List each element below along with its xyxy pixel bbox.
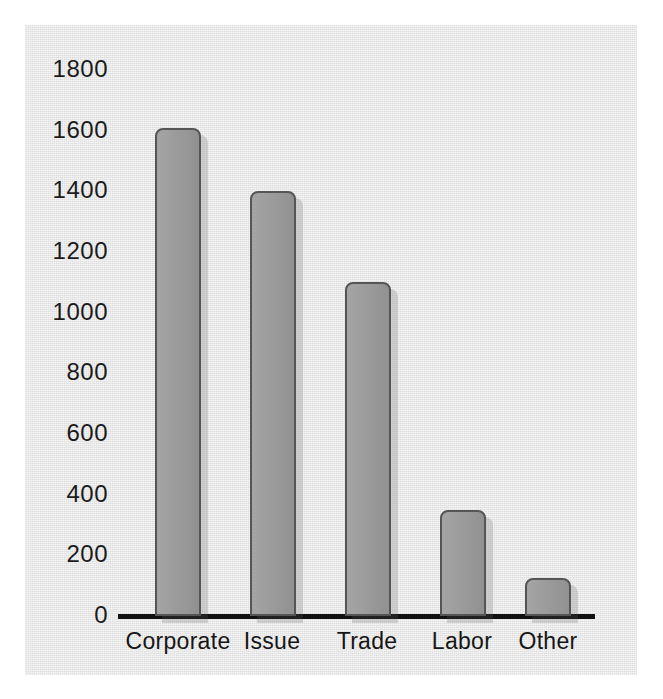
y-axis-tick-text: 800 — [66, 358, 108, 386]
y-axis-tick-text: 0 — [94, 601, 108, 629]
x-axis-tick-label-issue: Issue — [244, 628, 300, 655]
bar-issue[interactable] — [250, 191, 296, 616]
y-axis-tick-text: 1600 — [53, 116, 108, 144]
y-axis-tick-text: 1400 — [53, 176, 108, 204]
y-axis-tick-text: 200 — [66, 540, 108, 568]
bar-labor[interactable] — [440, 510, 486, 616]
y-axis-tick-text: 400 — [66, 480, 108, 508]
x-axis-tick-label-trade: Trade — [337, 628, 398, 655]
bar-corporate[interactable] — [155, 128, 201, 616]
y-axis-tick-text: 1200 — [53, 237, 108, 265]
bar-other[interactable] — [525, 578, 571, 616]
x-axis-tick-label-other: Other — [518, 628, 577, 655]
plot-area: 020040060080010001200140016001800 Corpor… — [0, 0, 663, 699]
x-axis-tick-label-corporate: Corporate — [126, 628, 231, 655]
x-axis-tick-label-labor: Labor — [432, 628, 492, 655]
y-axis: 020040060080010001200140016001800 — [0, 0, 108, 699]
y-axis-tick-text: 600 — [66, 419, 108, 447]
bar-chart-figure: 020040060080010001200140016001800 Corpor… — [0, 0, 663, 699]
bar-trade[interactable] — [345, 282, 391, 616]
y-axis-tick-text: 1800 — [53, 55, 108, 83]
y-axis-tick-text: 1000 — [53, 298, 108, 326]
